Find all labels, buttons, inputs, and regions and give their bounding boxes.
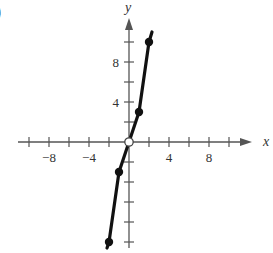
open-circle-point [125,138,133,146]
data-point [145,38,153,46]
data-point [105,238,113,246]
y-tick-label: 4 [113,95,120,110]
x-tick-label: 8 [206,150,213,165]
x-axis-arrow-icon [240,138,252,146]
curve-branch [129,32,152,142]
x-tick-label: −4 [82,150,96,165]
data-point [135,108,143,116]
x-axis-label: x [262,134,270,149]
curve-branch [107,142,129,248]
y-tick-label: 8 [113,55,120,70]
x-tick-label: 4 [166,150,173,165]
data-point [115,168,123,176]
y-axis-label: y [123,0,132,15]
chart-plot: −8−44848xy [0,0,273,253]
y-axis-arrow-icon [125,18,133,30]
x-tick-label: −8 [42,150,56,165]
